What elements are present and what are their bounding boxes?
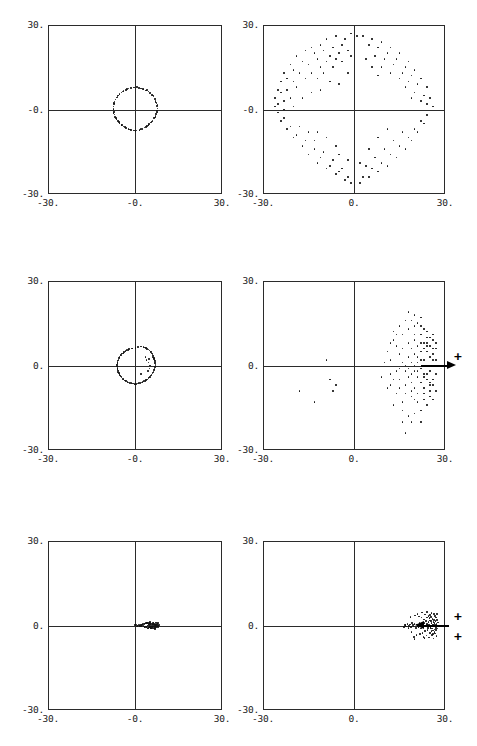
data-point <box>347 176 349 178</box>
data-point <box>148 358 150 360</box>
data-point <box>286 78 288 80</box>
data-point <box>402 348 404 350</box>
data-point <box>423 399 425 401</box>
data-point <box>414 69 416 71</box>
data-point <box>417 401 419 403</box>
data-point-layer <box>263 25 445 194</box>
data-point <box>124 380 126 382</box>
data-point <box>120 354 122 356</box>
data-point <box>136 626 138 628</box>
data-point <box>420 342 422 344</box>
data-point <box>421 617 423 619</box>
data-point <box>426 373 428 375</box>
data-point <box>362 176 364 178</box>
data-point <box>424 637 426 639</box>
data-point <box>148 124 150 126</box>
data-point <box>417 356 419 358</box>
data-point-layer <box>48 25 222 194</box>
data-point <box>299 390 301 392</box>
data-point <box>414 413 416 415</box>
data-point <box>393 339 395 341</box>
data-point <box>283 72 285 74</box>
scatter-panel-panel-r2c1: -30.0.30.-30.-0.30. <box>48 281 222 450</box>
data-point <box>119 93 121 95</box>
data-point <box>433 613 435 615</box>
data-point <box>344 38 346 40</box>
data-point <box>283 109 285 111</box>
data-point <box>368 44 370 46</box>
data-point <box>135 383 137 385</box>
data-point <box>429 97 431 99</box>
data-point <box>411 373 413 375</box>
data-point <box>423 619 425 621</box>
data-point <box>359 162 361 164</box>
data-point <box>296 55 298 57</box>
data-point <box>277 112 279 114</box>
x-axis-tick-label: -0. <box>113 454 157 464</box>
data-point <box>124 126 126 128</box>
scatter-panel-panel-r1c2: -30.-0.30.-30.0.30. <box>263 25 445 194</box>
data-point <box>387 52 389 54</box>
plus-marker-icon: + <box>454 631 462 642</box>
data-point <box>432 339 434 341</box>
data-point <box>156 112 158 114</box>
data-point <box>368 148 370 150</box>
x-axis-tick-label: -30. <box>26 454 70 464</box>
data-point <box>123 352 125 354</box>
data-point <box>432 334 434 336</box>
data-point <box>435 348 437 350</box>
data-point <box>414 314 416 316</box>
data-point <box>302 97 304 99</box>
data-point <box>113 106 115 108</box>
data-point <box>274 97 276 99</box>
data-point <box>387 387 389 389</box>
data-point <box>425 620 427 622</box>
data-point <box>408 328 410 330</box>
data-point <box>314 52 316 54</box>
data-point <box>408 61 410 63</box>
y-axis-tick-label: 30. <box>215 536 259 546</box>
data-point <box>410 616 412 618</box>
data-point <box>399 325 401 327</box>
data-point <box>381 41 383 43</box>
data-point <box>286 89 288 91</box>
data-point-layer <box>48 281 222 450</box>
data-point <box>137 346 139 348</box>
data-point <box>390 154 392 156</box>
data-point <box>429 620 431 622</box>
x-axis-tick-label: -0. <box>113 714 157 724</box>
data-point-layer <box>48 541 222 710</box>
data-point <box>427 629 429 631</box>
scatter-panel-panel-r3c1: -30.0.30.-30.-0.30. <box>48 541 222 710</box>
y-axis-tick-label: 30. <box>0 20 44 30</box>
data-point <box>320 44 322 46</box>
x-axis-tick-label: -0. <box>113 198 157 208</box>
data-point <box>421 612 423 614</box>
data-point <box>411 390 413 392</box>
data-point <box>149 365 151 367</box>
data-point <box>127 349 129 351</box>
data-point <box>299 72 301 74</box>
y-axis-tick-label: 0. <box>0 621 44 631</box>
data-point <box>335 173 337 175</box>
data-point <box>405 148 407 150</box>
data-point <box>405 432 407 434</box>
data-point <box>323 50 325 52</box>
data-point <box>146 622 148 624</box>
data-point <box>417 83 419 85</box>
data-point <box>396 393 398 395</box>
data-point <box>293 137 295 139</box>
x-axis-tick-label: -30. <box>26 198 70 208</box>
data-point <box>426 86 428 88</box>
data-point <box>326 61 328 63</box>
data-point <box>426 379 428 381</box>
data-point <box>280 120 282 122</box>
data-point <box>411 631 413 633</box>
data-point <box>422 632 424 634</box>
data-point <box>368 176 370 178</box>
data-point <box>418 616 420 618</box>
data-point <box>149 376 151 378</box>
data-point <box>432 379 434 381</box>
data-point <box>423 387 425 389</box>
data-point <box>113 102 115 104</box>
